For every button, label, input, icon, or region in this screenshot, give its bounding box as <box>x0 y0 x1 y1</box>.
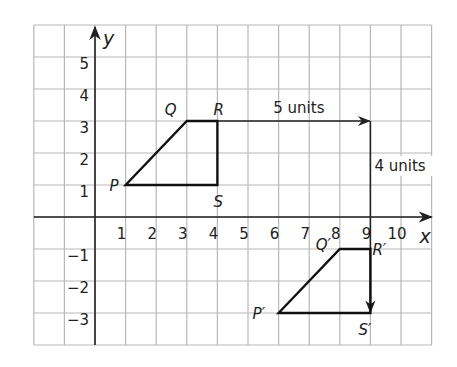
vertical-translation-label: 4 units <box>374 157 425 175</box>
vertex-label: Q′ <box>316 236 332 254</box>
translation-arrows: 5 units4 units <box>217 99 435 312</box>
y-tick-label: 1 <box>79 183 89 201</box>
vertex-label: P′ <box>253 305 266 323</box>
vertex-label: R′ <box>372 241 386 259</box>
x-tick-label: 7 <box>300 225 310 243</box>
y-tick-label: −2 <box>67 279 89 297</box>
y-tick-label: 2 <box>79 151 89 169</box>
x-tick-label: 2 <box>147 225 157 243</box>
y-tick-label: 4 <box>79 87 89 105</box>
coordinate-plane-diagram: xy 1234567891054321−1−2−3 5 units4 units… <box>0 0 457 367</box>
vertex-label: S <box>213 193 223 211</box>
axes: xy <box>34 27 432 345</box>
y-axis-label: y <box>102 27 115 49</box>
vertex-label: Q <box>165 101 177 119</box>
horizontal-translation-label: 5 units <box>273 99 324 117</box>
x-tick-label: 1 <box>117 225 127 243</box>
grid-lines <box>34 25 432 345</box>
coordinate-grid: xy 1234567891054321−1−2−3 5 units4 units… <box>0 0 457 367</box>
x-tick-label: 6 <box>270 225 280 243</box>
vertex-label: R <box>213 101 223 119</box>
x-tick-label: 10 <box>387 225 406 243</box>
x-tick-label: 4 <box>209 225 219 243</box>
vertex-label: S′ <box>358 321 372 339</box>
y-tick-label: −3 <box>67 311 89 329</box>
y-tick-label: 5 <box>79 55 89 73</box>
x-tick-label: 5 <box>239 225 249 243</box>
y-tick-label: −1 <box>67 247 89 265</box>
x-axis-label: x <box>419 225 432 247</box>
vertex-label: P <box>110 177 120 195</box>
x-tick-label: 3 <box>178 225 188 243</box>
x-tick-label: 8 <box>331 225 341 243</box>
y-tick-label: 3 <box>79 119 89 137</box>
